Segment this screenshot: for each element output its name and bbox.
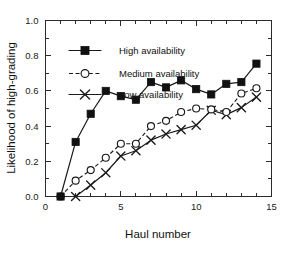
x-axis-tick-labels: 051015	[43, 201, 277, 212]
marker-open-circle	[208, 106, 215, 113]
legend-label: High availability	[119, 45, 185, 56]
marker-filled-square	[238, 79, 245, 86]
marker-cross	[177, 126, 185, 134]
legend-entry-medium-availability[interactable]: Medium availability	[69, 68, 200, 79]
x-tick-label: 0	[43, 201, 48, 212]
marker-cross	[87, 181, 95, 189]
marker-open-circle	[87, 167, 94, 174]
chart-figure: Likelihood of high-grading Haul number 0…	[0, 0, 307, 255]
y-tick-label: 0.4	[25, 121, 38, 132]
marker-filled-square	[87, 110, 94, 117]
series-line	[61, 88, 257, 196]
marker-cross	[252, 93, 260, 101]
marker-filled-square	[81, 46, 89, 54]
legend-label: Low availability	[119, 89, 183, 100]
marker-open-circle	[163, 117, 170, 124]
marker-filled-square	[253, 60, 260, 67]
x-axis-title: Haul number	[125, 228, 191, 240]
marker-open-circle	[72, 177, 79, 184]
marker-filled-square	[223, 80, 230, 87]
marker-open-circle	[132, 140, 139, 147]
marker-open-circle	[223, 109, 230, 116]
legend-entry-high-availability[interactable]: High availability	[69, 45, 185, 56]
marker-open-circle	[193, 105, 200, 112]
marker-filled-square	[208, 91, 215, 98]
marker-open-circle	[81, 70, 89, 78]
marker-open-circle	[178, 109, 185, 116]
marker-cross	[162, 130, 170, 138]
y-axis-title: Likelihood of high-grading	[5, 42, 17, 174]
y-tick-label: 0.6	[25, 85, 38, 96]
marker-open-circle	[102, 154, 109, 161]
marker-filled-square	[57, 193, 64, 200]
x-tick-label: 5	[118, 201, 123, 212]
marker-filled-square	[102, 87, 109, 94]
y-tick-label: 0.2	[25, 156, 38, 167]
marker-open-circle	[238, 90, 245, 97]
chart-legend: High availabilityMedium availabilityLow …	[69, 45, 200, 100]
x-tick-label: 10	[191, 201, 202, 212]
marker-filled-square	[72, 138, 79, 145]
y-tick-label: 0.0	[25, 191, 38, 202]
series-layer	[57, 60, 261, 201]
marker-open-circle	[253, 85, 260, 92]
y-axis-title-label: Likelihood of high-grading	[5, 42, 17, 174]
legend-label: Medium availability	[119, 68, 200, 79]
line-chart: Likelihood of high-grading Haul number 0…	[0, 0, 307, 255]
y-tick-label: 0.8	[25, 50, 38, 61]
y-tick-label: 1.0	[25, 15, 38, 26]
marker-filled-square	[193, 86, 200, 93]
marker-cross	[102, 169, 110, 177]
x-tick-label: 15	[266, 201, 277, 212]
marker-open-circle	[147, 123, 154, 130]
marker-cross	[132, 147, 140, 155]
series-low-availability	[72, 93, 261, 201]
legend-entry-low-availability[interactable]: Low availability	[69, 89, 183, 100]
marker-filled-square	[147, 79, 154, 86]
series-high-availability	[57, 60, 260, 200]
x-axis-title-label: Haul number	[125, 228, 191, 240]
marker-open-circle	[117, 140, 124, 147]
y-axis-tick-labels: 0.00.20.40.60.81.0	[25, 15, 38, 202]
marker-cross	[192, 121, 200, 129]
marker-cross	[117, 152, 125, 160]
marker-cross	[237, 104, 245, 112]
marker-cross	[147, 136, 155, 144]
